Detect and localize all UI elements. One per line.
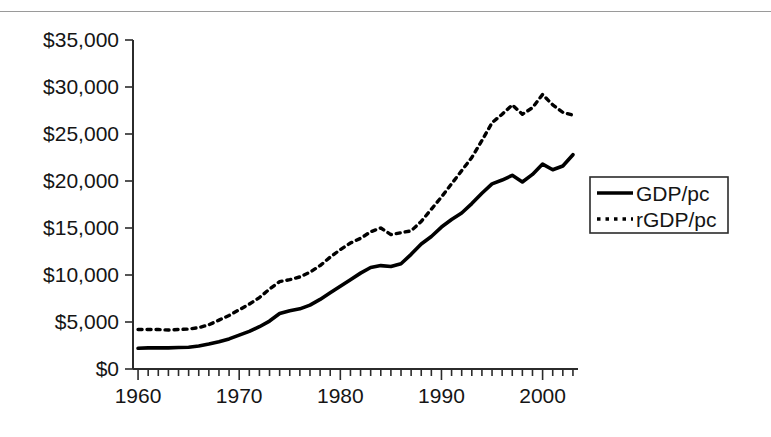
figure-container: $0$5,000$10,000$15,000$20,000$25,000$30,…: [0, 0, 771, 437]
y-tick-label: $5,000: [55, 310, 119, 333]
x-tick-label: 1980: [317, 384, 364, 407]
legend-label-rgdp-pc[interactable]: rGDP/pc: [636, 208, 717, 231]
x-tick-label: 1990: [418, 384, 465, 407]
y-tick-label: $25,000: [43, 122, 119, 145]
x-tick-label: 2000: [519, 384, 566, 407]
axes: [133, 40, 578, 369]
y-tick-label: $35,000: [43, 28, 119, 51]
x-tick-label: 1970: [216, 384, 263, 407]
y-tick-label: $15,000: [43, 216, 119, 239]
x-tick-label: 1960: [115, 384, 162, 407]
y-tick-label: $0: [96, 357, 119, 380]
data-series: [138, 95, 573, 349]
line-chart: $0$5,000$10,000$15,000$20,000$25,000$30,…: [0, 0, 771, 437]
legend-label-gdp-pc[interactable]: GDP/pc: [636, 182, 710, 205]
series-line-gdp-pc: [138, 155, 573, 349]
series-line-rgdp-pc: [138, 95, 573, 330]
chart-legend[interactable]: GDP/pcrGDP/pc: [590, 177, 728, 233]
y-tick-label: $20,000: [43, 169, 119, 192]
y-tick-label: $10,000: [43, 263, 119, 286]
y-axis-ticks: $0$5,000$10,000$15,000$20,000$25,000$30,…: [43, 28, 133, 380]
x-axis-ticks: 19601970198019902000: [115, 369, 573, 407]
y-tick-label: $30,000: [43, 75, 119, 98]
